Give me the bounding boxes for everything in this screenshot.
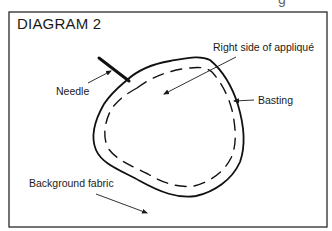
diagram-svg <box>0 0 332 231</box>
basting-label: Basting <box>258 95 293 106</box>
needle <box>99 58 129 81</box>
right-side-arrow <box>164 57 236 94</box>
basting-stitches <box>105 67 235 186</box>
diagram-canvas: g DIAGRAM 2 Needle Right side of appliqu… <box>0 0 332 231</box>
cutoff-glyph: g <box>278 0 286 6</box>
background-fabric-label: Background fabric <box>29 178 114 189</box>
needle-label: Needle <box>56 86 89 97</box>
background-arrow <box>96 194 147 213</box>
right-side-label: Right side of appliqué <box>213 42 314 53</box>
needle-arrow <box>88 71 111 83</box>
diagram-title: DIAGRAM 2 <box>17 16 101 31</box>
applique-outline <box>94 57 244 196</box>
